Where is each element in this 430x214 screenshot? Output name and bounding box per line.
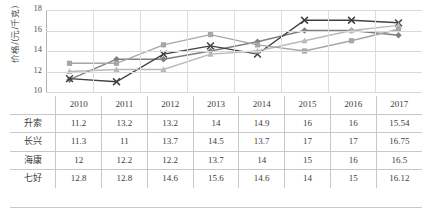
table-cell: 13.2 — [147, 114, 193, 133]
table-cell: 13.7 — [193, 151, 239, 170]
table-cell: 12.8 — [56, 170, 102, 188]
marker-square — [161, 42, 166, 47]
table-cell: 14.5 — [193, 133, 239, 152]
data-table: 20102011201220132014201520162017 升索11.21… — [10, 96, 422, 188]
y-tick-16: 16 — [34, 25, 43, 34]
table-cell: 14.6 — [239, 170, 285, 188]
table-row: 海康1212.212.213.714151616.5 — [10, 151, 422, 170]
gridline-vertical — [234, 10, 235, 92]
table-col-header-2011: 2011 — [102, 96, 148, 114]
table-cell: 12 — [56, 151, 102, 170]
table-cell: 17 — [330, 133, 376, 152]
table-col-header-2010: 2010 — [56, 96, 102, 114]
table-col-header-2015: 2015 — [285, 96, 331, 114]
y-axis-title: 价格/(元/千克) — [8, 0, 22, 72]
table-row-label: 海康 — [10, 151, 56, 170]
y-tick-14: 14 — [34, 45, 43, 54]
table-cell: 14.6 — [147, 170, 193, 188]
table-col-header-2012: 2012 — [147, 96, 193, 114]
table-cell: 12.2 — [147, 151, 193, 170]
gridline-vertical — [93, 10, 94, 92]
gridline-vertical — [281, 10, 282, 92]
gridline-vertical — [328, 10, 329, 92]
table-cell: 15.54 — [376, 114, 422, 133]
table-cell: 14 — [239, 151, 285, 170]
table-row-label: 长兴 — [10, 133, 56, 152]
y-tick-18: 18 — [34, 4, 43, 13]
table-row: 长兴11.31113.714.513.7171716.75 — [10, 133, 422, 152]
gridline-vertical — [375, 10, 376, 92]
table-row: 升索11.213.213.21414.9161615.54 — [10, 114, 422, 133]
marker-square — [67, 61, 72, 66]
table-header-row: 20102011201220132014201520162017 — [10, 96, 422, 114]
table-cell: 15 — [285, 151, 331, 170]
table-cell: 14.9 — [239, 114, 285, 133]
gridline-vertical — [187, 10, 188, 92]
data-table-wrapper: 20102011201220132014201520162017 升索11.21… — [10, 96, 422, 208]
line-chart: 价格/(元/千克) 1012141618 — [0, 0, 430, 100]
table-cell: 14 — [193, 114, 239, 133]
table-cell: 11 — [102, 133, 148, 152]
table-bottom-rule — [10, 207, 422, 208]
marker-square — [255, 42, 260, 47]
table-col-header-2016: 2016 — [330, 96, 376, 114]
table-cell: 16 — [285, 114, 331, 133]
table-row: 七好12.812.814.615.614.6141516.12 — [10, 170, 422, 188]
table-cell: 16.5 — [376, 151, 422, 170]
plot-area — [46, 10, 422, 92]
table-cell: 11.2 — [56, 114, 102, 133]
table-header: 20102011201220132014201520162017 — [10, 96, 422, 114]
y-tick-10: 10 — [34, 86, 43, 95]
table-cell: 16 — [330, 151, 376, 170]
table-col-header-2017: 2017 — [376, 96, 422, 114]
marker-square — [114, 61, 119, 66]
table-cell: 12.8 — [102, 170, 148, 188]
y-axis-tick-labels: 1012141618 — [24, 8, 44, 94]
table-cell: 16 — [330, 114, 376, 133]
marker-square — [349, 38, 354, 43]
y-tick-12: 12 — [34, 66, 43, 75]
marker-diamond — [395, 32, 401, 38]
table-cell: 12.2 — [102, 151, 148, 170]
table-col-header-2013: 2013 — [193, 96, 239, 114]
table-cell: 16.12 — [376, 170, 422, 188]
table-cell: 17 — [285, 133, 331, 152]
marker-square — [208, 32, 213, 37]
table-cell: 15.6 — [193, 170, 239, 188]
table-cell: 15 — [330, 170, 376, 188]
table-cell: 13.7 — [239, 133, 285, 152]
gridline-horizontal — [46, 92, 422, 93]
table-col-header-2014: 2014 — [239, 96, 285, 114]
table-row-label: 升索 — [10, 114, 56, 133]
table-cell: 14 — [285, 170, 331, 188]
table-corner-cell — [10, 96, 56, 114]
table-cell: 16.75 — [376, 133, 422, 152]
table-cell: 11.3 — [56, 133, 102, 152]
table-cell: 13.2 — [102, 114, 148, 133]
table-cell: 13.7 — [147, 133, 193, 152]
chart-with-data-table: 价格/(元/千克) 1012141618 2010201120122013201… — [0, 0, 430, 214]
table-row-label: 七好 — [10, 170, 56, 188]
gridline-vertical — [140, 10, 141, 92]
table-body: 升索11.213.213.21414.9161615.54长兴11.31113.… — [10, 114, 422, 188]
